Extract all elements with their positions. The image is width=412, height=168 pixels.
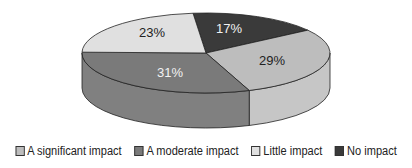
legend-item-moderate: A moderate impact	[135, 144, 239, 158]
legend-label: A moderate impact	[146, 144, 238, 158]
legend-item-little: Little impact	[251, 144, 322, 158]
chart-legend: A significant impact A moderate impact L…	[16, 141, 395, 161]
legend-label: Little impact	[263, 144, 322, 158]
pie-label-little: 23%	[139, 25, 165, 40]
legend-label: A significant impact	[27, 144, 122, 158]
pie-label-significant: 29%	[259, 53, 285, 68]
legend-item-none: No impact	[335, 144, 397, 158]
legend-swatch-little	[251, 146, 260, 156]
legend-item-significant: A significant impact	[15, 144, 121, 158]
legend-label: No impact	[347, 144, 397, 158]
pie-chart: 17%29%31%23%	[0, 0, 412, 135]
pie-label-moderate: 31%	[157, 65, 183, 80]
pie-top-face	[82, 13, 330, 93]
legend-swatch-none	[335, 146, 344, 156]
legend-swatch-moderate	[135, 146, 144, 156]
legend-swatch-significant	[15, 146, 24, 156]
pie-label-none: 17%	[216, 21, 242, 36]
